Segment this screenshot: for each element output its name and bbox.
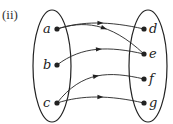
element-dot-g (141, 100, 146, 105)
element-label-f: f (148, 71, 156, 86)
arrowhead-icon (96, 47, 102, 52)
element-label-a: a (43, 21, 51, 36)
element-dot-f (141, 76, 146, 81)
element-dot-c (54, 100, 59, 105)
element-label-d: d (149, 21, 157, 36)
element-dot-e (141, 51, 146, 56)
element-label-e: e (149, 46, 157, 61)
element-label-g: g (149, 95, 157, 110)
element-label-b: b (43, 57, 51, 72)
element-dot-b (54, 62, 59, 67)
element-label-c: c (43, 95, 51, 110)
element-dot-a (54, 26, 59, 31)
mapping-diagram: (ii) abcdefg (0, 0, 173, 124)
figure-label: (ii) (2, 7, 18, 22)
arrowhead-icon (101, 25, 108, 31)
arrowhead-icon (93, 73, 100, 79)
element-dot-d (141, 26, 146, 31)
arrowhead-icon (97, 21, 103, 26)
arrowhead-icon (97, 95, 103, 100)
